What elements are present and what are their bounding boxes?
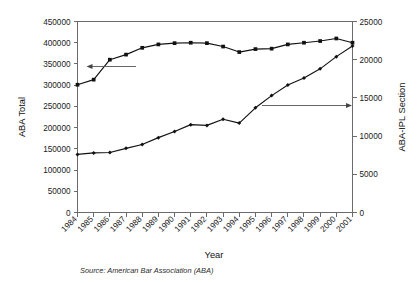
data-point-marker <box>189 41 193 45</box>
x-tick-label: 1996 <box>254 214 274 234</box>
x-tick-label: 1991 <box>173 214 193 234</box>
data-point-marker <box>254 47 258 51</box>
left-tick-label: 50000 <box>48 187 71 196</box>
x-tick-label: 1987 <box>108 214 128 234</box>
x-tick-label: 1994 <box>221 214 241 234</box>
series-path <box>78 38 353 84</box>
data-point-marker <box>76 83 80 87</box>
data-point-marker <box>286 43 290 47</box>
data-point-marker <box>334 37 338 41</box>
series-aba-ipl-section <box>76 44 355 156</box>
chart-container: 0500001000001500002000002500003000003500… <box>0 0 420 283</box>
left-tick-label: 150000 <box>43 145 71 154</box>
data-point-marker <box>205 41 209 45</box>
data-point-marker <box>92 78 96 82</box>
x-tick-label: 1989 <box>141 214 161 234</box>
data-point-marker <box>92 151 96 155</box>
x-tick-label: 1992 <box>189 214 209 234</box>
x-tick-label: 1986 <box>92 214 112 234</box>
left-tick-label: 250000 <box>43 102 71 111</box>
left-tick-label: 100000 <box>43 166 71 175</box>
right-arrow-annotation <box>262 103 352 108</box>
data-point-marker <box>173 130 177 134</box>
series-path <box>78 46 353 154</box>
right-tick-label: 20000 <box>360 56 383 65</box>
left-axis-title: ABA Total <box>17 97 27 137</box>
data-point-marker <box>140 143 144 147</box>
left-tick-label: 300000 <box>43 81 71 90</box>
data-point-marker <box>124 146 128 150</box>
data-point-marker <box>76 152 80 156</box>
x-axis-title: Year <box>205 250 224 260</box>
data-point-marker <box>140 46 144 50</box>
right-tick-label: 0 <box>360 209 365 218</box>
right-tick-label: 15000 <box>360 94 383 103</box>
x-tick-label: 1998 <box>286 214 306 234</box>
data-point-marker <box>221 45 225 49</box>
left-axis-ticks: 0500001000001500002000002500003000003500… <box>43 18 77 218</box>
data-point-marker <box>156 136 160 140</box>
left-tick-label: 450000 <box>43 18 71 27</box>
left-tick-label: 350000 <box>43 60 71 69</box>
x-tick-label: 1997 <box>270 214 290 234</box>
x-tick-label: 1995 <box>238 214 258 234</box>
data-point-marker <box>189 123 193 127</box>
x-tick-label: 1988 <box>124 214 144 234</box>
left-arrow-annotation <box>87 64 137 69</box>
data-point-marker <box>302 41 306 45</box>
x-tick-label: 1993 <box>205 214 225 234</box>
data-point-marker <box>318 39 322 43</box>
data-point-marker <box>237 50 241 54</box>
right-axis-ticks: 0500010000150002000025000 <box>353 18 383 218</box>
plot-frame <box>77 21 353 213</box>
data-point-marker <box>108 58 112 62</box>
data-point-marker <box>124 53 128 57</box>
x-tick-label: 1984 <box>60 214 80 234</box>
left-tick-label: 200000 <box>43 124 71 133</box>
data-point-marker <box>108 151 112 155</box>
data-point-marker <box>173 41 177 45</box>
source-note: Source: American Bar Association (ABA) <box>80 266 214 275</box>
x-tick-label: 1999 <box>302 214 322 234</box>
x-tick-label: 1985 <box>76 214 96 234</box>
right-tick-label: 10000 <box>360 132 383 141</box>
x-tick-label: 1990 <box>157 214 177 234</box>
data-point-marker <box>157 43 161 47</box>
data-point-marker <box>270 47 274 51</box>
x-tick-label: 2001 <box>335 214 355 234</box>
x-axis-ticks: 1984198519861987198819891990199119921993… <box>60 213 355 234</box>
data-point-marker <box>205 123 209 127</box>
series-aba-total <box>76 37 355 87</box>
left-tick-label: 400000 <box>43 39 71 48</box>
right-tick-label: 25000 <box>360 18 383 27</box>
right-axis-title: ABA-IPL Section <box>397 83 407 152</box>
right-tick-label: 5000 <box>360 170 379 179</box>
data-point-marker <box>221 117 225 121</box>
dual-axis-line-chart: 0500001000001500002000002500003000003500… <box>0 0 420 283</box>
x-tick-label: 2000 <box>318 214 338 234</box>
